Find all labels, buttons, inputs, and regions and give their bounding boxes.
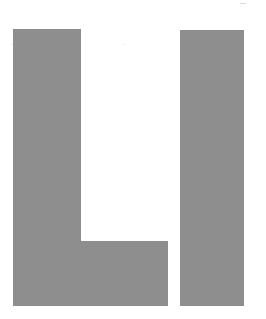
letter-i-label: I: [0, 0, 1, 1]
speck-mark: [240, 3, 246, 4]
letter-l-foot: [80, 241, 168, 306]
letter-i-bar: [180, 30, 244, 306]
speck-mark: [124, 44, 125, 45]
speck-mark: [12, 44, 13, 45]
letter-l-stem: [13, 29, 81, 306]
letter-l-label: L: [0, 0, 1, 1]
